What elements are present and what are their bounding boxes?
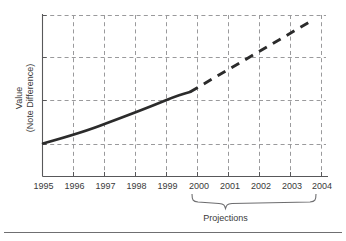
x-tick-label: 2002 (251, 181, 271, 191)
x-tick-label: 2004 (312, 181, 332, 191)
footer-divider (4, 232, 342, 233)
y-axis-ticks (43, 16, 47, 145)
x-tick-label: 1999 (157, 181, 177, 191)
x-tick-label: 1995 (33, 181, 53, 191)
x-axis-ticks (74, 172, 322, 177)
x-tick-label: 2001 (220, 181, 240, 191)
horizontal-gridlines (43, 16, 326, 145)
projections-brace (192, 194, 316, 209)
x-tick-label: 1997 (95, 181, 115, 191)
series-projections-line (190, 20, 313, 92)
x-axis-tick-labels: 1995 1996 1997 1998 1999 2000 2001 2002 … (33, 181, 332, 191)
x-tick-label: 1996 (64, 181, 84, 191)
y-axis-title-line-1: Value (14, 87, 24, 109)
y-axis-title: Value (Note Difference) (14, 64, 35, 132)
series-actual-line (43, 92, 190, 144)
vertical-gridlines (74, 15, 322, 176)
x-tick-label: 1998 (126, 181, 146, 191)
projections-label: Projections (203, 213, 248, 223)
chart-figure: 1995 1996 1997 1998 1999 2000 2001 2002 … (0, 0, 346, 241)
x-tick-label: 2000 (189, 181, 209, 191)
x-tick-label: 2003 (282, 181, 302, 191)
chart-canvas: 1995 1996 1997 1998 1999 2000 2001 2002 … (0, 0, 346, 241)
y-axis-title-line-2: (Note Difference) (25, 64, 35, 132)
